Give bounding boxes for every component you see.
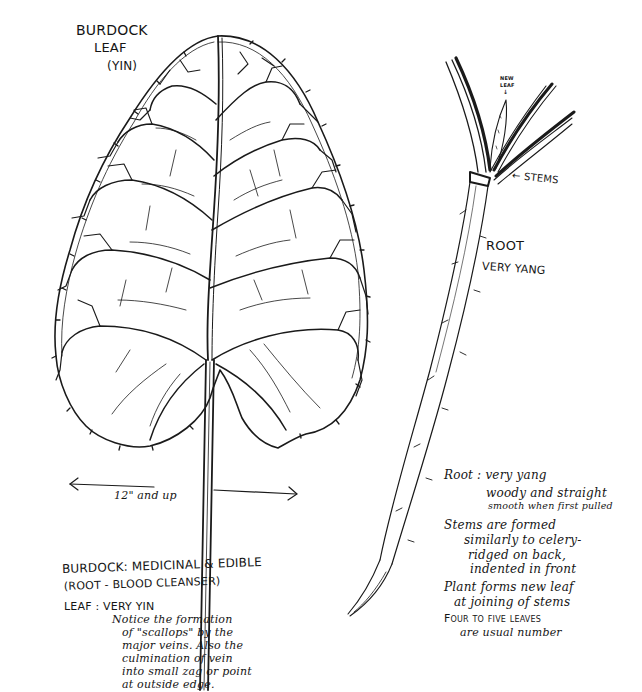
root-body (380, 182, 470, 560)
root-notes-plant-2: at joining of stems (454, 595, 570, 609)
leaf-title-line3: (YIN) (107, 59, 137, 73)
leaf-title-line1: BURDOCK (76, 22, 148, 38)
burdock-leaf-drawing (52, 36, 370, 690)
root-notes-detail-1: woody and straight (486, 486, 607, 500)
root-notes-leaves-2: are usual number (460, 626, 562, 639)
leaf-notes-line: of "scallops" by the (122, 626, 233, 639)
root-notes-stems-4: indented in front (470, 562, 576, 576)
leaf-notes-line: at outside edge. (122, 678, 215, 691)
leaf-notes-line: culmination of vein (122, 652, 233, 665)
leaf-notes-leaf-label: LEAF : VERY YIN (64, 600, 154, 613)
root-notes-stems-2: similarly to celery- (464, 533, 582, 547)
root-notes-plant-1: Plant forms new leaf (444, 580, 574, 594)
leaf-notes-line: Notice the formation (112, 613, 232, 626)
root-label: ROOT (486, 238, 524, 253)
root-notes-stems-1: Stems are formed (444, 518, 556, 532)
leaf-notes-line: major veins. Also the (122, 639, 243, 652)
root-notes-stems-3: ridged on back, (468, 548, 566, 562)
root-notes-root: Root : very yang (444, 468, 547, 482)
new-leaf-label-1: NEW (500, 75, 514, 81)
measurement-arrows (70, 478, 297, 500)
root-notes-detail-2: smooth when first pulled (488, 500, 613, 511)
leaf-width-label: 12" and up (114, 489, 177, 502)
root-notes-leaves-1: Four to five leaves (444, 612, 541, 625)
leaf-title-line2: LEAF (94, 40, 127, 55)
new-leaf-arrow-icon: ↓ (503, 89, 508, 95)
leaf-notes-line: into small zag or point (122, 665, 252, 678)
